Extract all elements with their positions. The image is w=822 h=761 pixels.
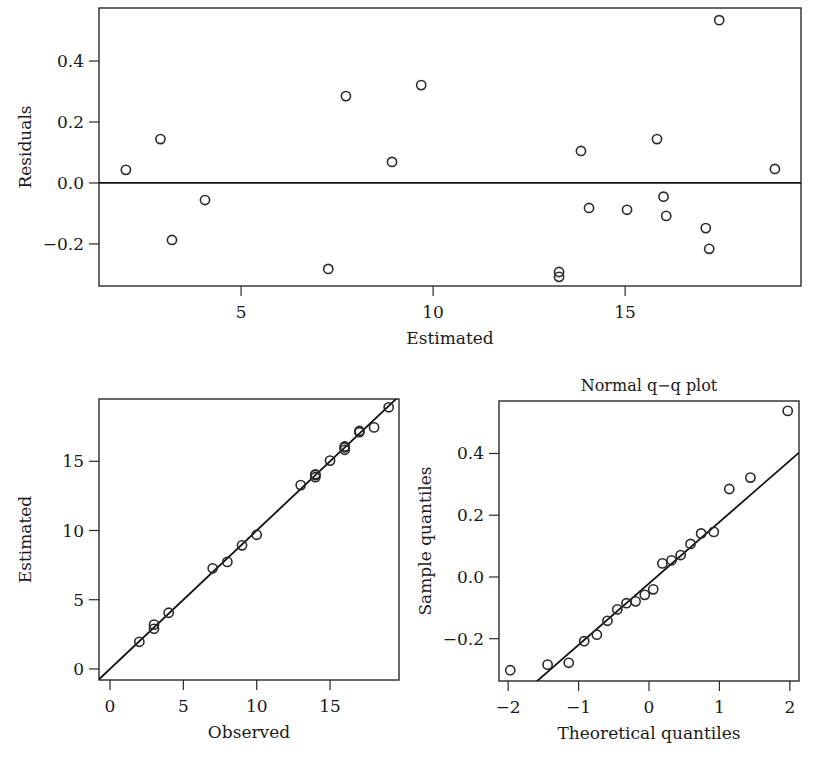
x-tick-label: 0 (644, 697, 655, 717)
x-tick-label: −2 (496, 697, 521, 717)
data-point (709, 527, 718, 536)
y-axis-label: Residuals (15, 105, 35, 188)
data-point (506, 666, 515, 675)
y-tick-label: −0.2 (43, 234, 84, 254)
data-point (705, 244, 714, 253)
y-tick-label: 0.4 (57, 51, 84, 71)
figure: 51015−0.20.00.20.4EstimatedResiduals 051… (0, 0, 822, 761)
data-point (369, 423, 378, 432)
data-point (715, 16, 724, 25)
chart-title: Normal q−q plot (581, 376, 718, 395)
y-tick-label: 0.0 (457, 567, 484, 587)
y-tick-label: −0.2 (443, 629, 484, 649)
data-point (564, 658, 573, 667)
data-point (652, 134, 661, 143)
x-tick-label: 15 (614, 302, 636, 322)
data-point (384, 403, 393, 412)
normal-qq-plot: −2−1012−0.20.00.20.4Theoretical quantile… (415, 376, 799, 743)
observed-vs-estimated-plot: 051015051015ObservedEstimated (15, 396, 399, 742)
data-point (649, 585, 658, 594)
data-point (156, 134, 165, 143)
y-tick-label: 0.0 (57, 173, 84, 193)
data-point (640, 590, 649, 599)
reference-line (499, 453, 799, 715)
x-tick-label: −1 (566, 697, 591, 717)
data-point (746, 473, 755, 482)
y-tick-label: 5 (73, 590, 84, 610)
x-tick-label: 5 (236, 302, 247, 322)
data-point (662, 211, 671, 220)
data-point (658, 559, 667, 568)
data-point (592, 630, 601, 639)
x-axis-label: Theoretical quantiles (558, 723, 741, 743)
data-point (324, 264, 333, 273)
data-point (701, 223, 710, 232)
data-point (576, 146, 585, 155)
residuals-plot: 51015−0.20.00.20.4EstimatedResiduals (15, 8, 801, 348)
plot-frame (99, 8, 801, 286)
plot-frame (499, 401, 799, 681)
x-tick-label: 10 (422, 302, 444, 322)
y-tick-label: 0.4 (457, 443, 484, 463)
figure-svg: 51015−0.20.00.20.4EstimatedResiduals 051… (0, 0, 822, 761)
data-point (584, 203, 593, 212)
data-point (121, 165, 130, 174)
y-tick-label: 0 (73, 659, 84, 679)
x-tick-label: 10 (246, 696, 268, 716)
y-tick-label: 10 (62, 521, 84, 541)
data-point (622, 205, 631, 214)
data-point (659, 192, 668, 201)
x-tick-label: 0 (105, 696, 116, 716)
data-point (167, 235, 176, 244)
data-point (580, 637, 589, 646)
data-point (200, 195, 209, 204)
data-point (341, 91, 350, 100)
y-axis-label: Estimated (15, 496, 35, 584)
data-point (387, 157, 396, 166)
x-tick-label: 15 (319, 696, 341, 716)
y-tick-label: 0.2 (457, 505, 484, 525)
x-axis-label: Observed (208, 722, 290, 742)
data-point (543, 660, 552, 669)
data-point (697, 529, 706, 538)
y-tick-label: 0.2 (57, 112, 84, 132)
reference-line (99, 396, 399, 679)
data-point (631, 597, 640, 606)
data-point (770, 164, 779, 173)
data-point (783, 406, 792, 415)
x-tick-label: 5 (178, 696, 189, 716)
x-tick-label: 2 (784, 697, 795, 717)
x-tick-label: 1 (714, 697, 725, 717)
data-point (417, 81, 426, 90)
x-axis-label: Estimated (406, 328, 494, 348)
y-axis-label: Sample quantiles (415, 466, 435, 615)
data-point (725, 484, 734, 493)
y-tick-label: 15 (62, 451, 84, 471)
